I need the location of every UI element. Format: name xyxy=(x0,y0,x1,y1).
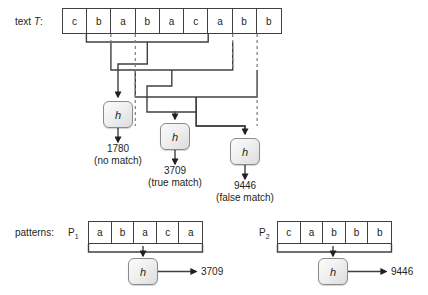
result-note: (false match) xyxy=(215,192,275,204)
hash-box-window-3: h xyxy=(230,138,260,165)
result-caption-1: 1780 (no match) xyxy=(88,143,148,166)
result-note: (no match) xyxy=(88,155,148,167)
diagram-canvas: text T: patterns: P1 P2 c b a b a c a b … xyxy=(0,0,428,295)
window-2-to-hash xyxy=(147,70,175,119)
result-caption-2: 3709 (true match) xyxy=(145,165,205,188)
result-value: 9446 xyxy=(215,180,275,192)
pattern-2-bracket xyxy=(278,244,392,252)
result-value: 3709 xyxy=(145,165,205,177)
window-1-bracket xyxy=(86,34,208,42)
window-2-bracket xyxy=(111,42,233,70)
hash-box-pattern-2: h xyxy=(318,258,348,285)
window-3-bracket xyxy=(135,70,257,97)
hash-box-window-1: h xyxy=(103,101,133,128)
window-3-to-hash xyxy=(196,97,245,134)
pattern-1-hash-value: 3709 xyxy=(201,266,223,277)
hash-box-pattern-1: h xyxy=(128,258,158,285)
pattern-1-bracket xyxy=(89,244,203,252)
connector-wires xyxy=(0,0,428,295)
pattern-2-hash-value: 9446 xyxy=(391,266,413,277)
result-caption-3: 9446 (false match) xyxy=(215,180,275,203)
result-note: (true match) xyxy=(145,177,205,189)
hash-box-window-2: h xyxy=(160,123,190,150)
result-value: 1780 xyxy=(88,143,148,155)
